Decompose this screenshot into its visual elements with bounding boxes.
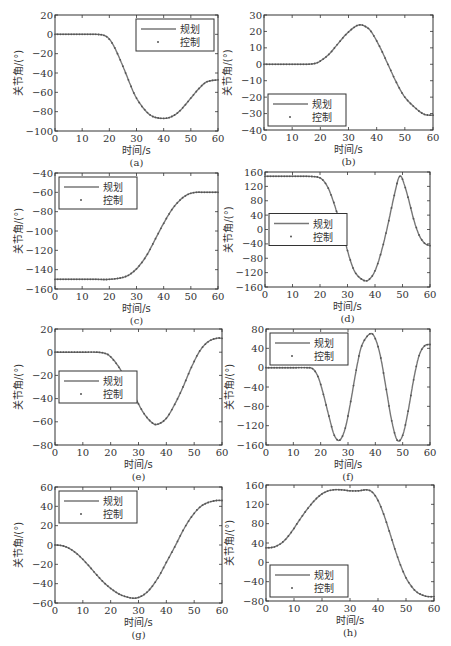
control-marker <box>313 501 315 503</box>
control-marker <box>98 279 100 281</box>
control-marker <box>138 102 140 104</box>
control-marker <box>179 110 181 112</box>
control-marker <box>185 380 187 382</box>
control-marker <box>345 34 347 36</box>
legend-label-plan: 规划 <box>103 181 123 193</box>
y-tick-label: −80 <box>242 253 263 264</box>
x-tick-label: 20 <box>316 603 329 614</box>
control-marker <box>88 351 90 353</box>
control-marker <box>355 369 357 371</box>
legend-label-control: 控制 <box>103 388 123 400</box>
control-marker <box>332 489 334 491</box>
control-marker <box>155 238 157 240</box>
control-marker <box>135 597 137 599</box>
y-tick-label: 40 <box>251 538 264 549</box>
control-marker <box>115 362 117 364</box>
x-tick-label: 50 <box>184 291 197 302</box>
control-marker <box>149 248 151 250</box>
control-marker <box>331 426 333 428</box>
y-tick-label: −30 <box>241 108 262 119</box>
control-marker <box>382 244 384 246</box>
control-marker <box>154 581 156 583</box>
control-marker <box>380 506 382 508</box>
control-marker <box>398 87 400 89</box>
control-marker <box>393 76 395 78</box>
x-tick-label: 60 <box>424 447 437 458</box>
y-tick-label: −40 <box>32 578 53 589</box>
y-tick-label: −80 <box>32 440 53 451</box>
control-marker <box>402 178 404 180</box>
control-marker <box>328 415 330 417</box>
control-marker <box>427 114 429 116</box>
control-marker <box>317 376 319 378</box>
subplot-b: 0102030405060−40−30−20−100102030规划控制时间/s… <box>221 10 439 168</box>
control-marker <box>182 386 184 388</box>
control-marker <box>353 385 355 387</box>
y-axis-label: 关节角/(°) <box>12 364 24 410</box>
control-marker <box>388 530 390 532</box>
control-marker <box>407 100 409 102</box>
x-tick-label: 60 <box>216 605 229 616</box>
control-marker <box>179 199 181 201</box>
control-marker <box>429 344 431 346</box>
control-marker <box>63 545 65 547</box>
control-marker <box>401 92 403 94</box>
control-marker <box>106 279 108 281</box>
control-marker <box>397 556 399 558</box>
control-marker <box>179 392 181 394</box>
control-marker <box>282 367 284 369</box>
control-marker <box>209 191 211 193</box>
y-tick-label: −60 <box>32 416 53 427</box>
control-marker <box>333 434 335 436</box>
control-marker <box>190 97 192 99</box>
control-marker <box>331 51 333 53</box>
y-tick-label: −40 <box>32 68 53 79</box>
control-marker <box>132 597 134 599</box>
control-marker <box>306 367 308 369</box>
x-tick-label: 20 <box>103 291 116 302</box>
control-marker <box>300 175 302 177</box>
control-marker <box>418 110 420 112</box>
x-tick-label: 10 <box>287 447 300 458</box>
control-marker <box>355 272 357 274</box>
control-marker <box>144 258 146 260</box>
control-marker <box>421 112 423 114</box>
control-marker <box>277 63 279 65</box>
control-marker <box>115 591 117 593</box>
control-marker <box>272 175 274 177</box>
control-marker <box>363 280 365 282</box>
control-marker <box>54 33 56 35</box>
y-axis-label: 关节角/(°) <box>222 206 234 252</box>
control-marker <box>122 65 124 67</box>
control-marker <box>130 273 132 275</box>
y-tick-label: 20 <box>40 324 53 335</box>
x-tick-label: 30 <box>341 289 354 300</box>
control-marker <box>127 274 129 276</box>
control-marker <box>157 117 159 119</box>
y-tick-label: 20 <box>40 520 53 531</box>
legend-dot-swatch <box>80 393 82 395</box>
control-marker <box>369 278 371 280</box>
control-marker <box>171 551 173 553</box>
control-marker <box>404 96 406 98</box>
x-axis-label: 时间/s <box>334 458 363 470</box>
control-marker <box>163 567 165 569</box>
control-marker <box>385 232 387 234</box>
control-marker <box>163 222 165 224</box>
subplot-h: 0102030405060−80−4004080120160规划控制时间/s关节… <box>223 480 440 639</box>
control-marker <box>206 191 208 193</box>
control-marker <box>327 187 329 189</box>
control-marker <box>302 515 304 517</box>
control-marker <box>413 379 415 381</box>
control-marker <box>100 34 102 36</box>
subplot-caption: (g) <box>131 629 145 640</box>
x-tick-label: 40 <box>372 603 385 614</box>
y-tick-label: −120 <box>237 420 264 431</box>
control-marker <box>204 82 206 84</box>
control-marker <box>117 53 119 55</box>
control-marker <box>394 548 396 550</box>
control-marker <box>414 589 416 591</box>
control-marker <box>314 371 316 373</box>
y-tick-label: −40 <box>241 125 262 136</box>
control-marker <box>143 594 145 596</box>
